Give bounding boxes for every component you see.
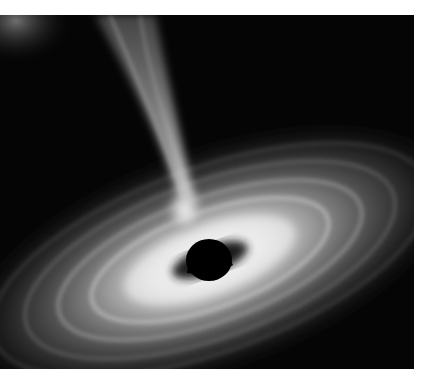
space-scene [0,15,414,369]
jet-base-glow [165,186,205,234]
black-hole-illustration [0,15,414,369]
